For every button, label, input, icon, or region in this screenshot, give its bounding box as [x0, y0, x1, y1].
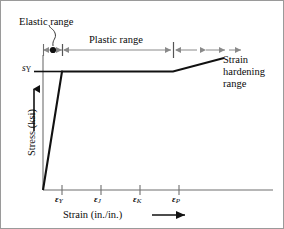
strain-hardening-line-3: range — [223, 78, 246, 89]
epsilon-subscript: Y — [59, 197, 63, 205]
stress-strain-figure: Elastic range Plastic range Strain harde… — [0, 0, 284, 229]
stress-strain-curve — [43, 58, 224, 190]
plastic-range-label: Plastic range — [89, 34, 143, 46]
x-axis-title: Strain (in./in.) — [63, 209, 122, 221]
x-tick-label-epsilon-y: εY — [55, 194, 63, 205]
elastic-range-callout-dot — [50, 47, 56, 53]
strain-hardening-line-2: hardening — [223, 66, 265, 77]
x-tick-label-epsilon-k: εK — [133, 194, 141, 205]
x-tick-label-epsilon-p: εP — [172, 194, 180, 205]
yield-stress-subscript: Y — [26, 65, 31, 74]
y-axis-title: Stress (ksi) — [26, 97, 37, 169]
elastic-range-dimension — [44, 25, 63, 56]
epsilon-subscript: J — [98, 197, 101, 205]
x-tick-label-epsilon-j: εJ — [94, 194, 101, 205]
strain-hardening-line-1: Strain — [223, 54, 248, 65]
epsilon-subscript: K — [137, 197, 142, 205]
strain-hardening-range-label: Strain hardening range — [223, 54, 281, 89]
yield-stress-label: sY — [22, 63, 31, 75]
epsilon-subscript: P — [176, 197, 180, 205]
elastic-range-leader-line — [49, 25, 55, 46]
elastic-range-label: Elastic range — [19, 16, 74, 28]
curve-path — [43, 58, 224, 190]
